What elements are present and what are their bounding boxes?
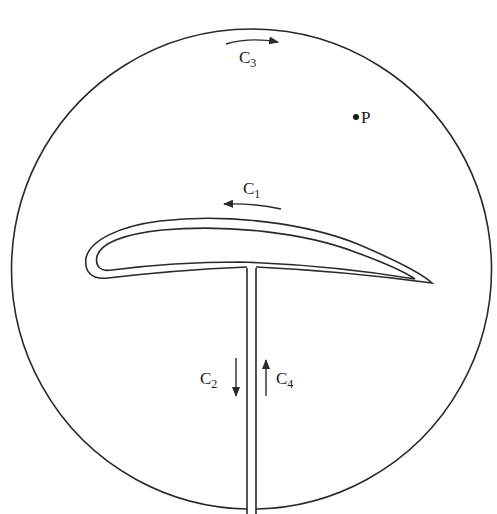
c4-label: C4 — [276, 369, 293, 391]
point-p-marker — [353, 114, 359, 120]
c2-label: C2 — [200, 369, 217, 391]
c3-arrow-icon — [226, 40, 278, 44]
outer-circle-contour — [11, 29, 491, 509]
airfoil-contour-diagram: C3 P C1 C2 C4 — [0, 0, 497, 514]
c1-arrow-icon — [224, 204, 281, 209]
c3-label: C3 — [239, 48, 256, 70]
point-p-label: P — [361, 108, 370, 127]
c1-label: C1 — [243, 179, 260, 201]
